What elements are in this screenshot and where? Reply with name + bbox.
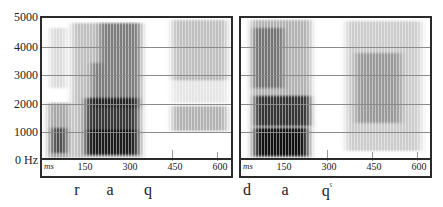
x-tick-600: 600	[213, 161, 228, 172]
time-unit-label: ms	[243, 161, 253, 171]
phoneme-r: r	[74, 181, 79, 199]
x-tick-300: 300	[123, 161, 138, 172]
phoneme-q-base: q	[322, 182, 330, 199]
x-tick-600: 600	[412, 161, 427, 172]
x-tick-450: 450	[168, 161, 183, 172]
time-unit-label: ms	[44, 161, 54, 171]
y-tick-3000: 3000	[0, 69, 38, 81]
phoneme-q: q	[144, 181, 152, 199]
phoneme-a: a	[281, 181, 288, 199]
spectrogram-left: ms 150 300 450 600	[40, 16, 233, 178]
spectrogram-right-image	[241, 18, 430, 161]
x-tick-450: 450	[367, 161, 382, 172]
x-tick-300: 300	[322, 161, 337, 172]
time-axis-left: ms 150 300 450 600	[42, 158, 231, 176]
pharyngealization-mark: ˤ	[330, 181, 332, 192]
y-tick-0hz: 0 Hz	[0, 154, 38, 166]
y-tick-2000: 2000	[0, 98, 38, 110]
phoneme-q-pharyngealized: qˤ	[322, 181, 332, 200]
spectrogram-right: ms 150 300 450 600	[239, 16, 432, 178]
phoneme-d: d	[243, 181, 251, 199]
spectrogram-left-image	[42, 18, 231, 161]
time-axis-right: ms 150 300 450 600	[241, 158, 430, 176]
x-tick-150: 150	[78, 161, 93, 172]
y-tick-4000: 4000	[0, 41, 38, 53]
phoneme-a: a	[106, 181, 113, 199]
x-tick-150: 150	[277, 161, 292, 172]
y-tick-1000: 1000	[0, 126, 38, 138]
y-tick-5000: 5000	[0, 11, 38, 23]
